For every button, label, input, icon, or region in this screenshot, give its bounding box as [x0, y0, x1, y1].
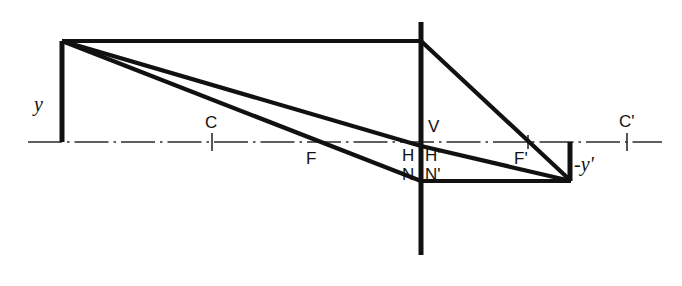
- ray-principal-refracted: [421, 146, 571, 181]
- label-point-N: N: [402, 165, 414, 184]
- image-height-label: -y': [574, 153, 595, 176]
- label-point-C: C: [205, 113, 217, 132]
- label-point-H-prime: H': [425, 146, 441, 165]
- label-point-N-prime: N': [425, 165, 441, 184]
- label-point-F: F: [306, 149, 316, 168]
- ray-principal-incident: [62, 41, 421, 146]
- label-point-H: H: [402, 146, 414, 165]
- label-point-V: V: [428, 117, 440, 136]
- ray-focal-incident: [62, 41, 421, 181]
- optical-ray-diagram: y -y' C F V H N H' N' F' C': [0, 0, 682, 286]
- diagram-canvas: y -y' C F V H N H' N' F' C': [0, 0, 682, 286]
- object-height-label: y: [32, 93, 43, 116]
- label-point-C-prime: C': [619, 112, 635, 131]
- ray-upper-parallel-refracted: [421, 41, 571, 181]
- label-point-F-prime: F': [514, 149, 528, 168]
